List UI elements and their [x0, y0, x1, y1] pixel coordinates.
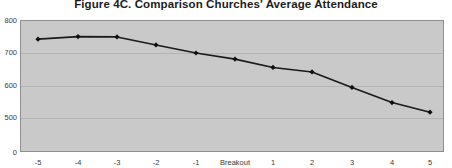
- data-point: [349, 85, 354, 90]
- data-point: [35, 37, 40, 42]
- data-point: [389, 100, 394, 105]
- data-point: [153, 42, 158, 47]
- chart-figure: Figure 4C. Comparison Churches' Average …: [0, 0, 452, 168]
- series-line: [38, 37, 430, 113]
- data-point: [193, 50, 198, 55]
- data-series-layer: [0, 0, 452, 168]
- series-markers: [35, 34, 432, 115]
- data-point: [427, 110, 432, 115]
- data-point: [232, 57, 237, 62]
- data-point: [270, 65, 275, 70]
- data-point: [75, 34, 80, 39]
- data-point: [309, 69, 314, 74]
- data-point: [114, 34, 119, 39]
